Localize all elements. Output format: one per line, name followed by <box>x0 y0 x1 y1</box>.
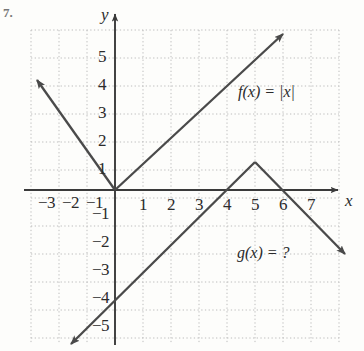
y-tick-minus-5: −5 <box>92 317 109 334</box>
graph-figure: 7. <box>0 0 364 351</box>
x-axis-label: x <box>345 192 353 209</box>
y-tick-3: 3 <box>98 104 107 121</box>
function-label-f: f(x) = |x| <box>238 84 295 100</box>
x-tick-7: 7 <box>307 196 316 213</box>
curve-f-absolute-value <box>37 34 283 190</box>
x-tick-minus-2: −2 <box>62 194 79 211</box>
grid-horizontal-lines <box>31 30 339 338</box>
y-tick-minus-3: −3 <box>92 261 109 278</box>
y-axis-label: y <box>101 6 109 23</box>
y-tick-minus-2: −2 <box>92 233 109 250</box>
x-tick-6: 6 <box>279 196 288 213</box>
x-tick-4: 4 <box>223 196 232 213</box>
x-tick-2: 2 <box>167 196 176 213</box>
y-tick-5: 5 <box>98 48 107 65</box>
y-tick-2: 2 <box>98 132 107 149</box>
function-label-g: g(x) = ? <box>237 245 290 261</box>
x-tick-1: 1 <box>139 196 148 213</box>
x-tick-minus-3: −3 <box>38 194 55 211</box>
grid-vertical-lines <box>31 30 339 344</box>
y-tick-4: 4 <box>98 76 107 93</box>
x-tick-minus-1: −1 <box>86 194 103 211</box>
y-tick-1: 1 <box>98 160 107 177</box>
x-tick-5: 5 <box>251 196 260 213</box>
coordinate-plane <box>0 0 364 351</box>
x-tick-3: 3 <box>195 196 204 213</box>
y-tick-minus-4: −4 <box>92 289 109 306</box>
